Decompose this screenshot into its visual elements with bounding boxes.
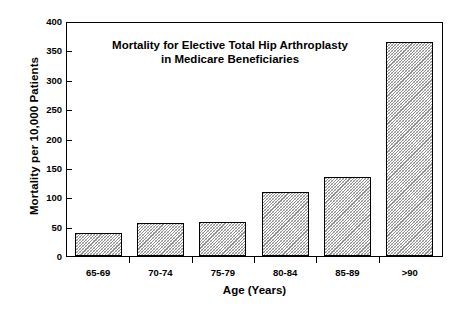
x-tick-label: 80-84	[254, 266, 316, 279]
bar[interactable]	[386, 42, 433, 256]
x-axis-title: Age (Years)	[66, 284, 443, 296]
y-tick-label: 50	[0, 222, 62, 234]
x-tick-mark	[254, 257, 255, 263]
y-tick-label: 100	[0, 192, 62, 204]
y-tick-label: 350	[0, 45, 62, 57]
bar[interactable]	[262, 192, 309, 256]
x-tick-label: 65-69	[67, 266, 129, 279]
y-tick-label: 0	[0, 251, 62, 263]
y-tick-label: 300	[0, 75, 62, 87]
chart-title: Mortality for Elective Total Hip Arthrop…	[80, 38, 380, 66]
x-tick-mark	[192, 257, 193, 263]
x-tick-label: 75-79	[192, 266, 254, 279]
chart-title-text: Mortality for Elective Total Hip Arthrop…	[112, 39, 348, 65]
bar[interactable]	[137, 223, 184, 256]
chart-figure: Mortality per 10,000 Patients 0501001502…	[0, 0, 467, 314]
bar[interactable]	[75, 233, 122, 256]
x-tick-label: >90	[379, 266, 441, 279]
x-tick-mark	[129, 257, 130, 263]
bar[interactable]	[324, 177, 371, 256]
y-tick-label: 250	[0, 104, 62, 116]
y-tick-label: 400	[0, 16, 62, 28]
x-tick-mark	[379, 257, 380, 263]
x-tick-mark	[316, 257, 317, 263]
y-tick-label: 200	[0, 134, 62, 146]
bar-slot	[379, 23, 441, 256]
bar[interactable]	[199, 222, 246, 256]
y-tick-label: 150	[0, 163, 62, 175]
x-tick-label: 70-74	[129, 266, 191, 279]
x-tick-label: 85-89	[316, 266, 378, 279]
